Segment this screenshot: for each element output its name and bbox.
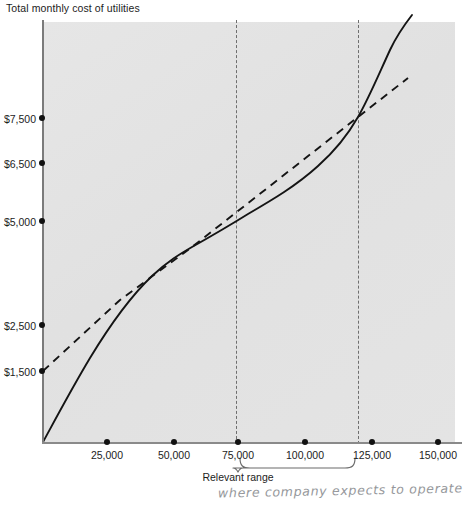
x-tick-label-50000: 50,000 [158,449,190,461]
relevant-range-upper-bound-line [358,20,359,444]
y-tick-label-5000: $5,000 [0,216,36,228]
y-tick-dot-1500 [39,368,45,374]
x-tick-dot-125000 [369,439,375,445]
y-tick-dot-6500 [39,160,45,166]
x-tick-dot-25000 [104,439,110,445]
relevant-range-label: Relevant range [202,471,273,483]
y-tick-label-2500: $2,500 [0,320,36,332]
y-tick-label-6500: $6,500 [0,158,36,170]
y-tick-dot-7500 [39,115,45,121]
x-tick-dot-75000 [235,439,241,445]
x-tick-label-25000: 25,000 [91,449,123,461]
x-tick-dot-100000 [302,439,308,445]
y-tick-dot-5000 [39,218,45,224]
utility-cost-chart: Total monthly cost of utilities $7,500 $… [0,0,471,505]
x-tick-label-150000: 150,000 [419,449,457,461]
y-tick-label-7500: $7,500 [0,113,36,125]
y-tick-dot-2500 [39,322,45,328]
relevant-range-lower-bound-line [236,20,237,444]
y-axis-line [42,20,44,444]
plot-area [42,22,455,442]
handwritten-note: where company expects to operate [218,480,463,500]
x-tick-label-75000: 75,000 [222,449,254,461]
x-tick-label-100000: 100,000 [286,449,324,461]
x-tick-dot-50000 [171,439,177,445]
x-tick-dot-150000 [435,439,441,445]
x-tick-label-125000: 125,000 [353,449,391,461]
chart-title: Total monthly cost of utilities [6,2,140,14]
y-tick-label-1500: $1,500 [0,366,36,378]
